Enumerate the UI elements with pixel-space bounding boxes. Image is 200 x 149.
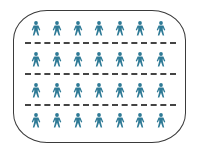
person-icon bbox=[30, 21, 42, 36]
person-icon bbox=[155, 21, 167, 36]
dashed-divider bbox=[25, 73, 176, 75]
person-icon bbox=[72, 21, 84, 36]
person-icon bbox=[51, 113, 63, 128]
person-icon bbox=[93, 113, 105, 128]
icon-row bbox=[30, 21, 170, 36]
person-icon bbox=[72, 83, 84, 98]
person-icon bbox=[114, 83, 126, 98]
person-icon bbox=[114, 113, 126, 128]
dashed-divider bbox=[25, 42, 176, 44]
person-icon bbox=[30, 52, 42, 67]
icon-row bbox=[30, 113, 170, 128]
person-icon bbox=[134, 113, 146, 128]
person-icon bbox=[155, 52, 167, 67]
person-icon bbox=[114, 52, 126, 67]
person-icon bbox=[134, 21, 146, 36]
person-icon bbox=[30, 83, 42, 98]
person-icon bbox=[72, 113, 84, 128]
person-icon bbox=[51, 83, 63, 98]
dashed-divider bbox=[25, 104, 176, 106]
icon-row bbox=[30, 83, 170, 98]
person-icon bbox=[114, 21, 126, 36]
person-icon bbox=[155, 83, 167, 98]
person-icon bbox=[51, 52, 63, 67]
icon-row bbox=[30, 52, 170, 67]
person-icon bbox=[134, 83, 146, 98]
person-icon bbox=[93, 83, 105, 98]
person-icon bbox=[30, 113, 42, 128]
person-icon bbox=[134, 52, 146, 67]
person-icon bbox=[93, 21, 105, 36]
person-icon bbox=[155, 113, 167, 128]
person-icon bbox=[51, 21, 63, 36]
person-icon bbox=[72, 52, 84, 67]
person-icon bbox=[93, 52, 105, 67]
